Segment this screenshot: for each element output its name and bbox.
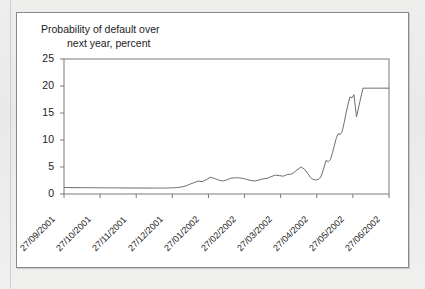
- ticks-group: [60, 59, 389, 198]
- figure-box: Probability of default over next year, p…: [16, 12, 409, 268]
- y-tick-label: 25: [30, 52, 54, 64]
- page-left-rule: [10, 0, 11, 289]
- y-tick-label: 15: [30, 106, 54, 118]
- series-line-probability-of-default: [64, 88, 389, 188]
- y-tick-label: 5: [30, 160, 54, 172]
- screenshot-root: Probability of default over next year, p…: [0, 0, 425, 289]
- axes-group: [64, 59, 389, 194]
- plot-area: 0510152025 27/09/200127/10/200127/11/200…: [17, 13, 410, 269]
- y-tick-label: 0: [30, 187, 54, 199]
- y-tick-label: 20: [30, 79, 54, 91]
- y-tick-label: 10: [30, 133, 54, 145]
